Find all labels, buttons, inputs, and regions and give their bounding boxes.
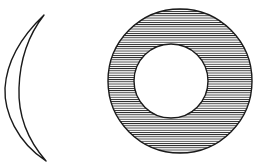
hatched-annulus bbox=[0, 0, 254, 166]
line-drawing-svg bbox=[0, 0, 254, 166]
annulus-hatch-fill bbox=[0, 0, 254, 166]
figure-canvas bbox=[0, 0, 254, 166]
